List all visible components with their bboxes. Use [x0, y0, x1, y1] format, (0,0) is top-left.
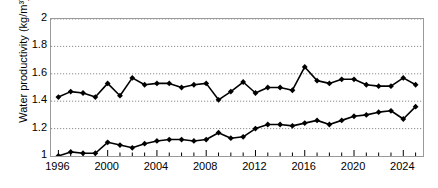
data-point-marker [129, 145, 135, 151]
data-point-marker [80, 90, 86, 96]
y-tick-label: 1 [3, 148, 47, 160]
data-point-marker [290, 87, 296, 93]
data-point-marker [166, 80, 172, 86]
y-tick-label: 1.8 [3, 38, 47, 50]
data-point-marker [154, 80, 160, 86]
data-point-marker [142, 141, 148, 147]
y-tick-label: 1.4 [3, 93, 47, 105]
x-tick-label: 2008 [193, 160, 217, 172]
data-point-marker [80, 150, 86, 156]
x-tick-label: 1996 [45, 160, 69, 172]
data-point-marker [55, 94, 61, 100]
data-point-marker [326, 80, 332, 86]
x-tick-label: 2020 [341, 160, 365, 172]
data-point-marker [179, 85, 185, 91]
x-tick-label: 2004 [144, 160, 168, 172]
data-point-marker [154, 138, 160, 144]
data-point-marker [191, 138, 197, 144]
data-point-marker [339, 76, 345, 82]
data-point-marker [117, 142, 123, 148]
data-point-marker [351, 76, 357, 82]
chart-svg [51, 19, 423, 156]
plot-area [50, 18, 424, 157]
data-point-marker [166, 137, 172, 143]
data-point-marker [265, 122, 271, 128]
data-point-marker [314, 117, 320, 123]
y-tick-label: 1.2 [3, 121, 47, 133]
data-point-marker [290, 123, 296, 129]
data-point-marker [376, 83, 382, 89]
series-line [58, 67, 415, 100]
x-tick-label: 2016 [291, 160, 315, 172]
data-point-marker [191, 82, 197, 88]
y-tick-label: 2 [3, 11, 47, 23]
data-point-marker [351, 113, 357, 119]
x-tick-label: 2000 [94, 160, 118, 172]
data-point-marker [376, 109, 382, 115]
data-point-marker [363, 82, 369, 88]
data-point-marker [339, 117, 345, 123]
data-point-marker [277, 122, 283, 128]
series-line [58, 107, 415, 156]
x-tick-label: 2012 [242, 160, 266, 172]
data-point-marker [363, 112, 369, 118]
chart-figure: Water productivity (kg/m³) 11.21.41.61.8… [0, 0, 438, 188]
data-point-marker [326, 122, 332, 128]
data-point-marker [68, 149, 74, 155]
x-tick-label: 2024 [390, 160, 414, 172]
data-point-marker [302, 120, 308, 126]
data-point-marker [265, 85, 271, 91]
data-point-marker [277, 85, 283, 91]
y-tick-label: 1.6 [3, 66, 47, 78]
data-point-marker [179, 137, 185, 143]
data-point-marker [228, 135, 234, 141]
x-axis-tick-labels: 19962000200420082012201620202024 [0, 160, 438, 182]
data-point-marker [68, 89, 74, 95]
